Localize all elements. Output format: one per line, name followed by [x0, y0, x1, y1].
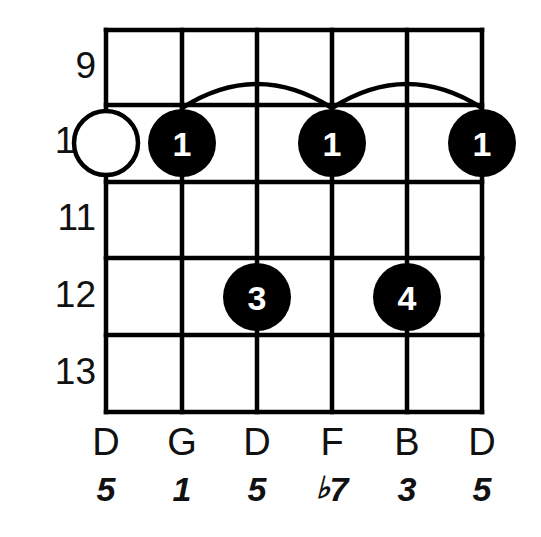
finger-dot-string-3-fret-12-label: 3: [248, 279, 267, 317]
interval-string-5: 3: [398, 470, 417, 508]
note-name-string-2: G: [167, 421, 197, 463]
note-name-string-1: D: [92, 421, 119, 463]
note-name-string-6: D: [468, 421, 495, 463]
finger-dot-string-2-label: 1: [173, 125, 192, 163]
finger-dot-string-6-label: 1: [473, 125, 492, 163]
fret-number-9: 9: [75, 45, 96, 86]
chord-diagram: 910111213 11134 DGDFBD 515♭735: [0, 0, 541, 537]
finger-dot-string-5-fret-12-label: 4: [398, 279, 417, 317]
interval-string-6: 5: [473, 470, 493, 508]
note-name-string-4: F: [320, 421, 343, 463]
note-name-string-3: D: [243, 421, 270, 463]
interval-string-4: ♭7: [316, 470, 351, 508]
fret-number-12: 12: [55, 274, 96, 315]
finger-dot-string-4-label: 1: [323, 125, 342, 163]
fret-number-11: 11: [58, 197, 96, 238]
note-name-string-5: B: [394, 421, 419, 463]
interval-string-3: 5: [248, 470, 268, 508]
interval-string-2: 1: [173, 470, 192, 508]
interval-string-1: 5: [97, 470, 117, 508]
fret-number-13: 13: [55, 351, 96, 392]
open-string-marker-string-1: [74, 111, 138, 175]
